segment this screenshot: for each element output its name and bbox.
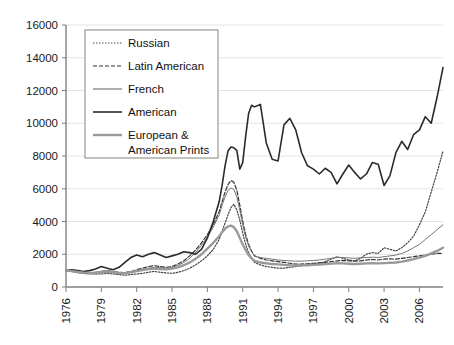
y-axis-tick-label: 12000 bbox=[26, 85, 58, 97]
legend-label-american[interactable]: American bbox=[128, 106, 177, 118]
series-line-european-american-prints bbox=[66, 226, 443, 273]
x-axis-tick-label: 2000 bbox=[343, 298, 355, 324]
x-axis-tick-label: 1976 bbox=[60, 298, 72, 324]
y-axis-tick-label: 16000 bbox=[26, 19, 58, 31]
legend-label-european-prints-line2[interactable]: American Prints bbox=[128, 144, 209, 156]
x-axis-tick-label: 1982 bbox=[131, 298, 143, 324]
legend-label-european-prints-line1[interactable]: European & bbox=[128, 129, 189, 141]
y-axis-tick-label: 14000 bbox=[26, 52, 58, 64]
series-line-latin-american bbox=[66, 181, 443, 274]
y-axis-tick-label: 6000 bbox=[32, 183, 58, 195]
x-axis-tick-label: 1979 bbox=[95, 298, 107, 324]
y-axis-tick-label: 8000 bbox=[32, 150, 58, 162]
legend-label-french[interactable]: French bbox=[128, 83, 164, 95]
y-axis-tick-label: 2000 bbox=[32, 248, 58, 260]
figure-container: 0200040006000800010000120001400016000197… bbox=[0, 0, 454, 345]
x-axis-tick-label: 1988 bbox=[201, 298, 213, 324]
chart-legend: RussianLatin AmericanFrenchAmericanEurop… bbox=[85, 30, 218, 158]
line-chart: 0200040006000800010000120001400016000197… bbox=[0, 0, 454, 345]
y-axis-tick-label: 0 bbox=[52, 281, 58, 293]
x-axis-tick-label: 1997 bbox=[307, 298, 319, 324]
x-axis-tick-label: 1994 bbox=[272, 297, 284, 323]
x-axis-tick-label: 1985 bbox=[166, 298, 178, 324]
y-axis-tick-label: 10000 bbox=[26, 117, 58, 129]
legend-label-russian[interactable]: Russian bbox=[128, 37, 170, 49]
x-axis-tick-label: 2003 bbox=[378, 298, 390, 324]
y-axis-tick-label: 4000 bbox=[32, 216, 58, 228]
x-axis-tick-label: 1991 bbox=[237, 298, 249, 324]
x-axis-tick-label: 2006 bbox=[413, 298, 425, 324]
legend-label-latin-american[interactable]: Latin American bbox=[128, 60, 204, 72]
